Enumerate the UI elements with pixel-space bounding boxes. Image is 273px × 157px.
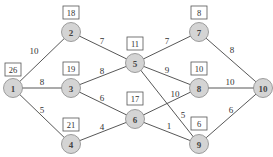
- svg-text:10: 10: [195, 64, 204, 74]
- edge-9-10: [199, 88, 263, 144]
- svg-text:11: 11: [131, 39, 139, 49]
- edge-weight: 9: [165, 65, 170, 75]
- node-value-box: 6: [191, 117, 207, 130]
- edge-weight: 6: [229, 105, 234, 115]
- edge-1-4: [13, 88, 71, 144]
- svg-text:17: 17: [131, 94, 140, 104]
- edge-weight: 5: [181, 110, 186, 120]
- node-label: 5: [133, 59, 138, 69]
- edge-weight: 8: [230, 45, 235, 55]
- node-2: 2: [62, 23, 81, 42]
- node-8: 8: [190, 79, 209, 98]
- svg-text:18: 18: [67, 8, 76, 18]
- network-diagram: 1085786479510181061262183194215116177881…: [0, 0, 273, 157]
- node-label: 1: [11, 84, 16, 94]
- node-3: 3: [62, 79, 81, 98]
- edge-6-8: [135, 88, 199, 119]
- svg-text:6: 6: [197, 119, 201, 129]
- node-6: 6: [126, 110, 145, 129]
- node-label: 6: [133, 115, 138, 125]
- node-label: 7: [197, 28, 202, 38]
- node-5: 5: [126, 54, 145, 73]
- svg-text:19: 19: [67, 64, 76, 74]
- node-value-box: 8: [191, 6, 207, 19]
- node-value-box: 11: [127, 37, 143, 50]
- node-4: 4: [62, 135, 81, 154]
- edge-weight: 6: [100, 93, 105, 103]
- edge-weight: 4: [100, 122, 105, 132]
- node-10: 10: [254, 79, 273, 98]
- node-label: 4: [69, 140, 74, 150]
- edge-weight: 1: [167, 121, 172, 131]
- node-label: 10: [259, 84, 269, 94]
- node-1: 1: [4, 79, 23, 98]
- node-7: 7: [190, 23, 209, 42]
- node-label: 9: [197, 140, 202, 150]
- node-9: 9: [190, 135, 209, 154]
- node-label: 3: [69, 84, 74, 94]
- edge-weight: 10: [226, 77, 236, 87]
- node-value-box: 18: [63, 6, 79, 19]
- edge-weight: 8: [100, 66, 105, 76]
- node-value-box: 10: [191, 62, 207, 75]
- graph-canvas: 1085786479510181061262183194215116177881…: [0, 0, 273, 157]
- svg-text:8: 8: [197, 8, 201, 18]
- edge-weight: 10: [30, 46, 40, 56]
- node-label: 2: [69, 28, 74, 38]
- node-value-box: 21: [63, 118, 79, 131]
- edge-weight: 7: [165, 36, 170, 46]
- node-label: 8: [197, 84, 202, 94]
- node-value-box: 19: [63, 62, 79, 75]
- edge-weight: 10: [171, 89, 181, 99]
- svg-text:26: 26: [9, 65, 18, 75]
- svg-text:21: 21: [67, 120, 76, 130]
- node-value-box: 26: [5, 63, 21, 76]
- node-value-box: 17: [127, 92, 143, 105]
- edge-weight: 5: [40, 105, 45, 115]
- edge-weight: 8: [40, 77, 45, 87]
- edge-weight: 7: [100, 36, 105, 46]
